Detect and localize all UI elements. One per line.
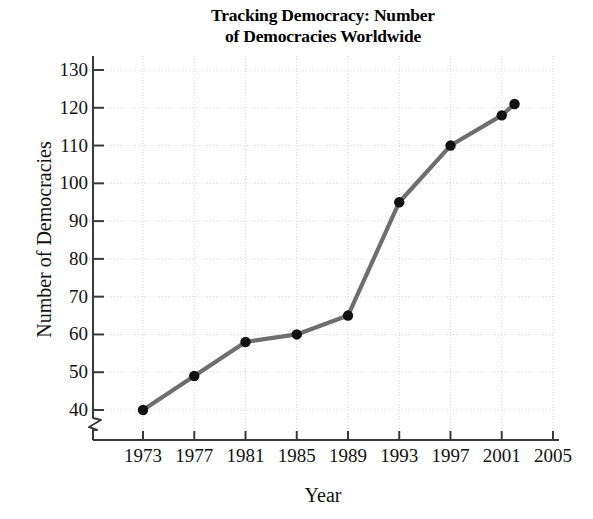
x-axis-ticks <box>143 431 553 440</box>
axis-lines <box>93 56 559 440</box>
data-point <box>189 371 199 381</box>
vertical-gridlines <box>143 56 553 440</box>
y-axis-break-icon <box>89 418 101 430</box>
horizontal-gridlines <box>93 70 553 410</box>
data-point <box>509 99 519 109</box>
data-line <box>143 104 515 410</box>
data-point <box>394 197 404 207</box>
data-point <box>138 405 148 415</box>
y-axis-ticks <box>93 70 104 410</box>
chart-figure: Tracking Democracy: Number of Democracie… <box>0 0 593 519</box>
plot-area <box>0 0 593 519</box>
data-point <box>343 310 353 320</box>
data-point <box>497 110 507 120</box>
data-point <box>445 140 455 150</box>
data-markers <box>138 99 520 415</box>
data-point <box>292 329 302 339</box>
data-point <box>240 337 250 347</box>
